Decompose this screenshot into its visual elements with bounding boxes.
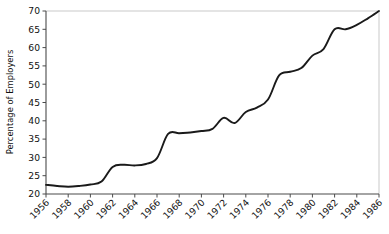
y-tick-label: 70 bbox=[28, 5, 40, 16]
x-tick-label: 1978 bbox=[271, 197, 295, 221]
y-tick-label: 45 bbox=[28, 97, 40, 108]
y-tick-label: 35 bbox=[28, 133, 40, 144]
x-tick-label: 1976 bbox=[249, 197, 273, 221]
x-tick-label: 1968 bbox=[160, 197, 184, 221]
x-tick-label-group: 1956195819601962196419661968197019721974… bbox=[27, 197, 384, 221]
x-tick-label: 1984 bbox=[338, 197, 362, 221]
y-tick-label: 60 bbox=[28, 42, 40, 53]
y-tick-label: 20 bbox=[28, 188, 40, 199]
y-tick-label: 65 bbox=[28, 24, 40, 35]
x-tick-label: 1986 bbox=[360, 197, 384, 221]
y-axis-title-text: Percentage of Employers bbox=[5, 50, 15, 155]
data-series-line bbox=[46, 11, 379, 187]
y-tick-label: 55 bbox=[28, 60, 40, 71]
x-tick-label: 1970 bbox=[182, 197, 206, 221]
y-tick-label: 25 bbox=[28, 170, 40, 181]
y-axis: 2025303540455055606570 bbox=[28, 5, 46, 199]
x-tick-label: 1982 bbox=[316, 197, 340, 221]
x-axis: 1956195819601962196419661968197019721974… bbox=[27, 194, 384, 221]
x-tick-label: 1980 bbox=[293, 197, 317, 221]
x-tick-label: 1966 bbox=[138, 197, 162, 221]
y-axis-title: Percentage of Employers bbox=[5, 50, 15, 155]
chart-container: 2025303540455055606570 19561958196019621… bbox=[0, 0, 389, 234]
x-tick-label: 1972 bbox=[205, 197, 229, 221]
series-group bbox=[46, 11, 379, 187]
y-tick-label: 50 bbox=[28, 79, 40, 90]
x-tick-label: 1974 bbox=[227, 197, 251, 221]
x-tick-label: 1958 bbox=[49, 197, 73, 221]
x-tick-label: 1962 bbox=[94, 197, 118, 221]
x-tick-label: 1956 bbox=[27, 197, 51, 221]
line-chart: 2025303540455055606570 19561958196019621… bbox=[0, 0, 389, 234]
y-tick-label-group: 2025303540455055606570 bbox=[28, 5, 40, 199]
x-tick-label: 1964 bbox=[116, 197, 140, 221]
y-tick-label: 30 bbox=[28, 152, 40, 163]
x-tick-label: 1960 bbox=[71, 197, 95, 221]
y-tick-label: 40 bbox=[28, 115, 40, 126]
